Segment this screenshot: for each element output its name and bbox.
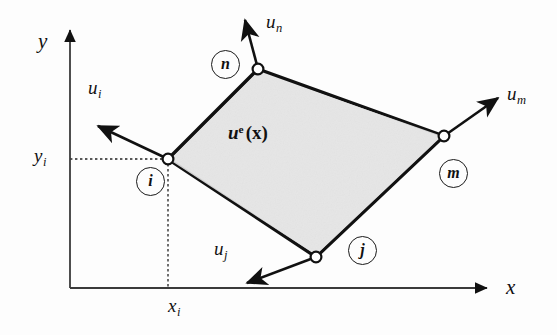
vector-label-u-m: um xyxy=(507,84,526,106)
vector-label-u-n-subscript: n xyxy=(276,21,282,35)
node-marker-m xyxy=(439,131,450,142)
diagram-svg xyxy=(0,0,557,335)
vector-label-u-m-subscript: m xyxy=(517,93,526,107)
node-marker-i xyxy=(163,154,174,165)
y-coordinate-subscript: i xyxy=(43,155,46,169)
vector-label-u-i-subscript: i xyxy=(98,87,101,101)
y-coordinate-base: y xyxy=(34,145,42,166)
node-marker-n xyxy=(253,64,264,75)
x-coordinate-subscript: i xyxy=(177,305,180,319)
y-axis-label: y xyxy=(38,31,47,52)
figure-canvas: y x xi yi ue(x) ui un um uj i n m j xyxy=(0,0,557,335)
x-coordinate-base: x xyxy=(168,295,176,316)
element-field-label: ue(x) xyxy=(228,123,268,142)
element-field-base: u xyxy=(228,122,239,143)
node-badge-j-label: j xyxy=(360,242,364,258)
vector-label-u-n-base: u xyxy=(266,11,276,32)
element-polygon-texture xyxy=(170,72,442,255)
node-badge-m: m xyxy=(439,159,468,188)
node-badge-i: i xyxy=(136,167,165,196)
node-badge-i-label: i xyxy=(148,173,152,189)
node-badge-n: n xyxy=(211,50,240,79)
vector-u-j xyxy=(247,257,316,283)
vector-u-n xyxy=(245,20,258,69)
node-badge-n-label: n xyxy=(221,56,230,72)
vector-u-m xyxy=(444,98,498,136)
vector-label-u-j-subscript: j xyxy=(224,248,227,262)
x-axis-label: x xyxy=(506,277,515,298)
element-field-superscript: e xyxy=(239,123,244,135)
vector-u-i xyxy=(98,126,168,159)
node-badge-m-label: m xyxy=(447,165,459,181)
y-coordinate-label: yi xyxy=(34,146,46,168)
x-coordinate-label: xi xyxy=(168,296,180,318)
vector-label-u-j: uj xyxy=(214,239,227,261)
vector-label-u-m-base: u xyxy=(507,83,517,104)
element-field-argument: (x) xyxy=(246,122,268,143)
vector-label-u-i-base: u xyxy=(88,77,98,98)
vector-label-u-j-base: u xyxy=(214,238,224,259)
node-marker-j xyxy=(311,252,322,263)
vector-label-u-n: un xyxy=(266,12,282,34)
node-badge-j: j xyxy=(348,236,377,265)
vector-label-u-i: ui xyxy=(88,78,101,100)
